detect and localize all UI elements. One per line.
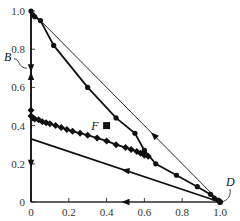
point-D-marker xyxy=(217,199,223,205)
diamond-marker xyxy=(63,126,70,133)
series-x-axis-path xyxy=(31,199,220,205)
diamond-marker xyxy=(113,141,120,148)
feed-point-marker xyxy=(103,122,110,129)
label-D-leader xyxy=(222,189,230,202)
circle-marker xyxy=(85,85,90,90)
x-tick-label: 0.8 xyxy=(175,206,189,218)
circle-marker xyxy=(51,43,56,48)
diamond-marker xyxy=(128,146,135,153)
diamond-marker xyxy=(58,124,65,131)
series-y-axis-path xyxy=(28,11,34,202)
circle-marker xyxy=(113,115,118,120)
arrow-icon xyxy=(122,199,130,205)
diamond-marker xyxy=(94,135,101,142)
y-tick-label: 0.8 xyxy=(11,43,25,55)
label-F: F xyxy=(90,119,99,133)
circle-marker xyxy=(174,173,179,178)
diamond-marker xyxy=(122,144,129,151)
series-line xyxy=(31,11,220,202)
diamond-marker xyxy=(103,137,110,144)
diamond-marker xyxy=(77,130,84,137)
diamond-marker xyxy=(84,132,91,139)
diamond-marker xyxy=(69,128,76,135)
x-tick-label: 0.6 xyxy=(138,206,152,218)
ternary-phase-chart: 00.20.40.60.81.000.20.40.60.81.0 BDF xyxy=(0,0,240,221)
y-tick-label: 0.4 xyxy=(11,120,25,132)
label-B: B xyxy=(4,50,12,64)
circle-marker xyxy=(208,192,213,197)
y-tick-label: 1.0 xyxy=(11,5,25,17)
circle-marker xyxy=(38,18,43,23)
circle-marker xyxy=(153,161,158,166)
y-tick-label: 0 xyxy=(20,196,26,208)
circle-marker xyxy=(195,184,200,189)
label-D: D xyxy=(225,175,235,189)
arrow-icon xyxy=(28,64,34,72)
x-tick-label: 0.2 xyxy=(62,206,76,218)
series-thin-line-D-to-top xyxy=(31,11,220,202)
x-tick-label: 0 xyxy=(28,206,34,218)
y-tick-label: 0.6 xyxy=(11,81,25,93)
label-B-leader xyxy=(14,59,27,69)
diamond-marker xyxy=(52,122,59,129)
x-tick-label: 0.4 xyxy=(100,206,114,218)
circle-marker xyxy=(32,14,37,19)
circle-marker xyxy=(132,131,137,136)
arrow-icon xyxy=(28,72,34,80)
y-tick-label: 0.2 xyxy=(11,158,25,170)
x-tick-label: 1.0 xyxy=(213,206,227,218)
series-layer xyxy=(28,8,223,205)
